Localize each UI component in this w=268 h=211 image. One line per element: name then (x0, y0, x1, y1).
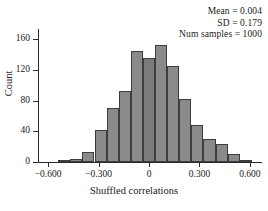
histogram-bar (191, 125, 203, 162)
x-axis-tick-mark (199, 163, 200, 167)
x-axis-tick-label: 0.300 (174, 169, 224, 179)
histogram-bar (70, 159, 82, 162)
plot-area (38, 30, 260, 162)
histogram-bar (167, 66, 179, 162)
histogram-bar (131, 51, 143, 162)
histogram-bar (107, 108, 119, 162)
histogram-bar (155, 45, 167, 162)
x-axis-tick-label: −0.300 (74, 169, 124, 179)
histogram-bar (119, 91, 131, 162)
x-axis-tick-mark (99, 163, 100, 167)
y-axis-tick-label: 160 (0, 34, 30, 44)
y-axis-tick-label: 40 (0, 126, 30, 136)
x-axis-line (38, 162, 262, 163)
y-axis-label: Count (3, 54, 14, 114)
histogram-bar (95, 130, 107, 162)
y-axis-tick-label: 0 (0, 157, 30, 167)
x-axis-tick-label: 0.600 (225, 169, 268, 179)
x-axis-tick-label: 0 (124, 169, 174, 179)
x-axis-tick-mark (149, 163, 150, 167)
histogram-bar (216, 144, 228, 162)
histogram-bar (143, 58, 155, 162)
x-axis-tick-label: −0.600 (23, 169, 73, 179)
histogram-bar (240, 160, 252, 162)
y-axis-tick-mark (33, 162, 38, 163)
histogram-bar (82, 152, 94, 162)
annotation-sd: SD = 0.179 (179, 18, 262, 30)
x-axis-tick-mark (48, 163, 49, 167)
histogram-bar (179, 99, 191, 162)
histogram-bar (228, 154, 240, 162)
histogram-figure: Mean = 0.004 SD = 0.179 Num samples = 10… (0, 0, 268, 211)
histogram-bar (58, 160, 70, 162)
histogram-bars (38, 30, 260, 162)
annotation-mean: Mean = 0.004 (179, 6, 262, 18)
x-axis-label: Shuffled correlations (0, 185, 268, 196)
histogram-bar (203, 139, 215, 162)
x-axis-tick-mark (250, 163, 251, 167)
